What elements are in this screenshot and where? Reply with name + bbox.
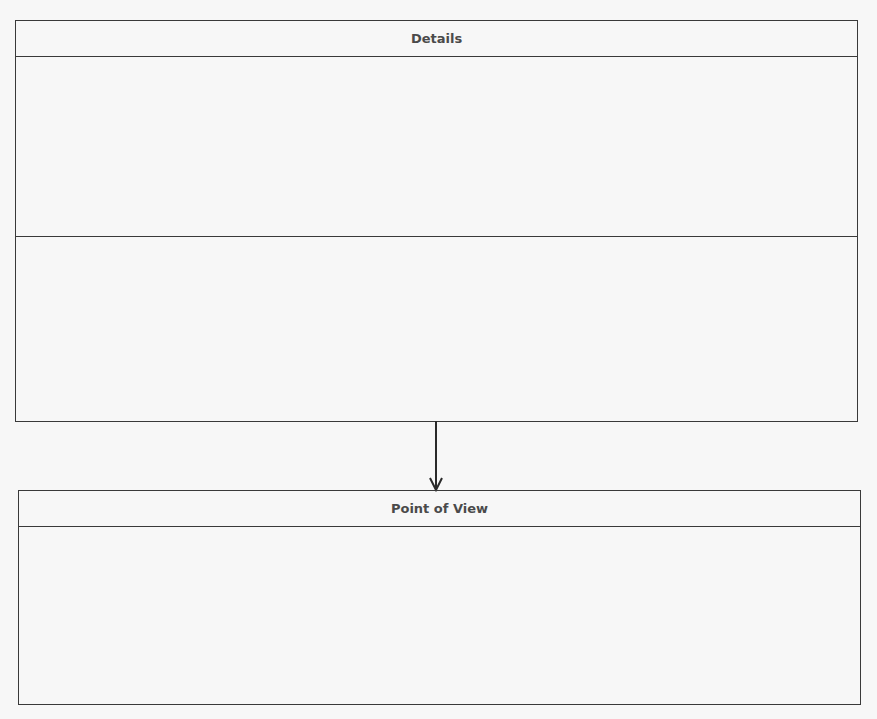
point-of-view-title: Point of View xyxy=(391,501,488,516)
details-section-1 xyxy=(16,57,857,237)
arrow-down-icon xyxy=(429,421,443,492)
details-title: Details xyxy=(411,31,462,46)
details-box: Details xyxy=(15,20,858,422)
point-of-view-box: Point of View xyxy=(18,490,861,705)
point-of-view-header: Point of View xyxy=(19,491,860,527)
details-header: Details xyxy=(16,21,857,57)
